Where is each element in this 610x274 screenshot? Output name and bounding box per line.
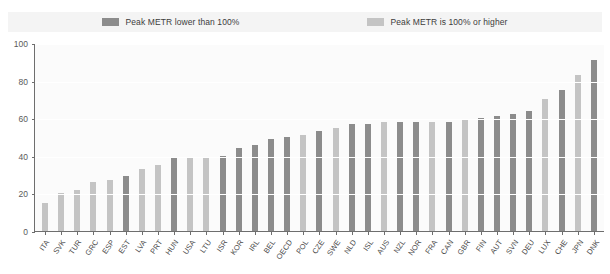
x-tick-label: ESP (100, 238, 116, 256)
bar-slot (537, 44, 553, 231)
x-label-slot: NZL (392, 236, 408, 274)
x-axis: ITASVKTURGRCESPESTLVAPRTHUNUSALTUISRKORI… (34, 236, 604, 274)
x-tick-label: IRL (247, 238, 261, 253)
x-label-slot: KOR (230, 236, 246, 274)
bar-slot (247, 44, 263, 231)
bar[interactable] (575, 75, 581, 231)
x-tick-mark (239, 232, 240, 235)
bar[interactable] (349, 124, 355, 231)
bar[interactable] (58, 193, 64, 231)
legend-item-light[interactable]: Peak METR is 100% or higher (367, 17, 507, 27)
x-tick-label: DNK (585, 238, 602, 256)
x-tick-mark (158, 232, 159, 235)
bar[interactable] (559, 90, 565, 231)
x-label-slot: ESP (101, 236, 117, 274)
bar[interactable] (123, 176, 129, 231)
y-tick-mark (32, 194, 35, 195)
bar[interactable] (526, 111, 532, 231)
bar-slot (134, 44, 150, 231)
bar-slot (360, 44, 376, 231)
x-label-slot: EST (117, 236, 133, 274)
bar[interactable] (510, 114, 516, 231)
legend-item-dark[interactable]: Peak METR lower than 100% (102, 17, 239, 27)
x-tick-mark (110, 232, 111, 235)
bar-slot (473, 44, 489, 231)
x-tick-mark (578, 232, 579, 235)
bar[interactable] (446, 122, 452, 231)
x-label-slot: AUS (376, 236, 392, 274)
bar-slot (69, 44, 85, 231)
x-tick-label: AUS (375, 238, 391, 256)
y-tick-label: 60 (19, 114, 28, 124)
x-label-slot: IRL (246, 236, 262, 274)
bar[interactable] (365, 124, 371, 231)
bar[interactable] (74, 190, 80, 231)
bar[interactable] (462, 120, 468, 231)
x-label-slot: LVA (133, 236, 149, 274)
x-label-slot: DNK (586, 236, 602, 274)
bar[interactable] (42, 203, 48, 231)
y-tick-label: 0 (23, 227, 28, 237)
plot-area (34, 44, 604, 232)
bar[interactable] (591, 60, 597, 231)
bar-slot (263, 44, 279, 231)
bar-group (35, 44, 604, 231)
x-tick-label: NLD (343, 238, 359, 256)
bar-slot (311, 44, 327, 231)
y-axis: 020406080100 (0, 40, 28, 232)
bar-slot (392, 44, 408, 231)
x-label-slot: AUT (489, 236, 505, 274)
bar[interactable] (478, 118, 484, 231)
x-tick-label: FIN (474, 238, 488, 253)
x-tick-mark (400, 232, 401, 235)
bar-slot (457, 44, 473, 231)
bar[interactable] (397, 122, 403, 231)
bar[interactable] (413, 122, 419, 231)
bar[interactable] (139, 169, 145, 231)
x-tick-mark (319, 232, 320, 235)
gridline (35, 44, 604, 45)
bar-slot (102, 44, 118, 231)
bar[interactable] (316, 131, 322, 231)
bar[interactable] (284, 137, 290, 231)
x-tick-mark (255, 232, 256, 235)
x-label-slot: GRC (85, 236, 101, 274)
bar[interactable] (107, 180, 113, 231)
x-tick-mark (352, 232, 353, 235)
x-tick-label: ISL (361, 238, 375, 253)
x-label-slot: FIN (473, 236, 489, 274)
x-tick-mark (449, 232, 450, 235)
x-label-slot: GBR (456, 236, 472, 274)
gridline (35, 82, 604, 83)
legend-swatch-dark-icon (102, 18, 119, 26)
y-tick-mark (32, 82, 35, 83)
bar-slot (53, 44, 69, 231)
bar[interactable] (90, 182, 96, 231)
x-label-slot: JPN (570, 236, 586, 274)
bar-slot (408, 44, 424, 231)
x-tick-label: SWE (325, 238, 342, 257)
x-tick-mark (271, 232, 272, 235)
bar-slot (215, 44, 231, 231)
bar[interactable] (381, 122, 387, 231)
chart-container: Peak METR lower than 100% Peak METR is 1… (0, 0, 610, 274)
bar[interactable] (494, 116, 500, 231)
x-label-slot: SWE (327, 236, 343, 274)
x-tick-label: FRA (423, 238, 439, 256)
bar[interactable] (333, 128, 339, 231)
x-tick-label: JPN (569, 238, 585, 255)
bar[interactable] (300, 135, 306, 231)
x-label-slot: LTU (198, 236, 214, 274)
x-tick-label: LVA (133, 238, 148, 254)
x-tick-mark (481, 232, 482, 235)
x-label-slot: ITA (36, 236, 52, 274)
bar[interactable] (268, 139, 274, 231)
bar-slot (279, 44, 295, 231)
x-label-slot: FRA (424, 236, 440, 274)
bar[interactable] (155, 165, 161, 231)
bar[interactable] (236, 148, 242, 231)
x-label-slot: CZE (311, 236, 327, 274)
x-tick-mark (497, 232, 498, 235)
bar[interactable] (429, 122, 435, 231)
x-tick-mark (93, 232, 94, 235)
